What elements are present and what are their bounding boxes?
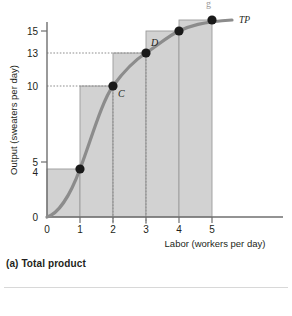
point-label-c: C bbox=[118, 88, 125, 99]
point-label-d: D bbox=[150, 37, 159, 48]
x-tick-label-5: 5 bbox=[209, 224, 215, 235]
total-product-figure: 15 13 10 5 4 0 0 1 2 3 4 5 Output (sweat… bbox=[0, 0, 292, 316]
y-axis-title: Output (sweaters per day) bbox=[8, 65, 19, 175]
x-tick-label-1: 1 bbox=[77, 224, 83, 235]
data-point-d bbox=[141, 48, 150, 57]
data-point-b bbox=[75, 164, 84, 173]
y-tick-label-0: 0 bbox=[32, 212, 38, 223]
section-divider bbox=[4, 287, 288, 288]
x-tick-label-2: 2 bbox=[110, 224, 116, 235]
y-tick-label-15: 15 bbox=[27, 26, 39, 37]
data-point-f bbox=[207, 15, 216, 24]
data-point-c bbox=[108, 81, 117, 90]
figure-caption: (a) Total product bbox=[6, 258, 86, 269]
y-tick-label-10: 10 bbox=[27, 81, 39, 92]
data-point-e bbox=[174, 26, 183, 35]
x-tick-label-0: 0 bbox=[44, 224, 50, 235]
step-rect-4-5 bbox=[179, 20, 212, 217]
total-product-chart: 15 13 10 5 4 0 0 1 2 3 4 5 Output (sweat… bbox=[0, 0, 292, 260]
curve-label-tp: TP bbox=[239, 15, 250, 25]
step-rect-0-1 bbox=[47, 169, 80, 217]
y-tick-label-4: 4 bbox=[32, 167, 38, 178]
x-axis-title: Labor (workers per day) bbox=[165, 238, 266, 249]
x-tick-label-4: 4 bbox=[176, 224, 182, 235]
y-tick-label-13: 13 bbox=[27, 48, 39, 59]
x-tick-label-3: 3 bbox=[143, 224, 149, 235]
next-panel-partial-labels: ct er | bbox=[6, 296, 28, 314]
step-rect-3-4 bbox=[146, 31, 179, 217]
cut-off-glyph: g bbox=[206, 0, 211, 9]
